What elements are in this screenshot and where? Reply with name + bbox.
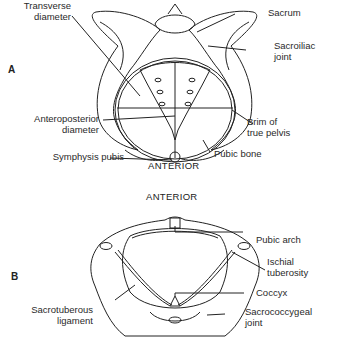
pelvis-b-drawing: [91, 217, 265, 336]
label-sacroiliac-joint: Sacroiliac joint: [274, 41, 315, 62]
label-ischial-tuberosity: Ischial tuberosity: [267, 257, 308, 278]
label-anteroposterior-diameter: Anteroposterior diameter: [34, 114, 99, 135]
panel-a-letter: A: [8, 64, 15, 75]
label-pubic-arch: Pubic arch: [256, 235, 301, 246]
anterior-label-a: ANTERIOR: [148, 160, 200, 171]
label-pubic-bone: Pubic bone: [214, 149, 262, 160]
label-symphysis-pubis: Symphysis pubis: [53, 152, 124, 163]
anterior-label-b: ANTERIOR: [146, 191, 198, 202]
label-sacrotuberous-ligament: Sacrotuberous ligament: [31, 305, 93, 326]
pelvis-a-drawing: [72, 4, 257, 162]
label-transverse-diameter: Transverse diameter: [24, 1, 71, 22]
label-sacrum: Sacrum: [268, 8, 301, 19]
label-sacrococcygeal-joint: Sacrococcygeal joint: [245, 307, 312, 328]
panel-b-letter: B: [11, 271, 18, 282]
label-coccyx: Coccyx: [256, 288, 287, 299]
label-brim-of-true-pelvis: Brim of true pelvis: [247, 117, 290, 138]
